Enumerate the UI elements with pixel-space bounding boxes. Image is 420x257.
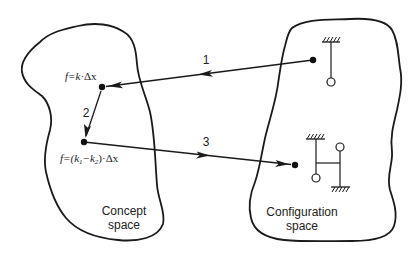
config-point-double-pendulum <box>292 162 298 168</box>
config-point-single-pendulum <box>310 57 316 63</box>
formula-2-prefix: f=(k <box>60 152 80 165</box>
arrow-1-label: 1 <box>203 53 210 67</box>
formula-1-suffix: ·Δx <box>80 70 97 82</box>
double-pendulum-icon <box>306 134 350 192</box>
formula-label-2: f=(k1−k2)·Δx <box>60 152 119 166</box>
formula-2-suffix: )·Δx <box>98 152 118 165</box>
concept-space-label-line1: Concept <box>102 204 147 218</box>
formula-label-1: f=k·Δx <box>65 70 97 82</box>
arrow-3-label: 3 <box>203 135 210 149</box>
formula-1-prefix: f=k <box>65 70 81 82</box>
concept-space-label-line2: space <box>108 218 140 232</box>
concept-point-1 <box>99 84 105 90</box>
concept-point-2 <box>81 139 87 145</box>
configuration-space-label-line1: Configuration <box>266 205 337 219</box>
configuration-space-label-line2: space <box>286 219 318 233</box>
concept-configuration-diagram: 1 2 3 f=k·Δx f=(k1−k2)·Δx Concept space … <box>0 0 420 257</box>
arrow-2-label: 2 <box>83 106 90 120</box>
single-pendulum-icon <box>322 37 340 86</box>
